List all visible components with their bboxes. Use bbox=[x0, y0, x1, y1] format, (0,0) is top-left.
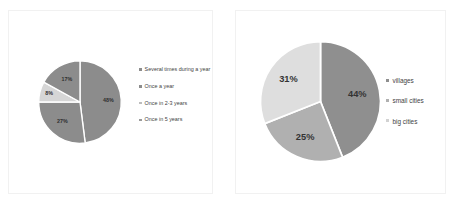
legend-survey-frequency-label: Once a year bbox=[145, 83, 174, 91]
legend-swatch-icon bbox=[386, 79, 389, 82]
legend-settlement-type-item[interactable]: villages bbox=[386, 76, 446, 85]
pie-slice-label: 31% bbox=[279, 74, 298, 84]
legend-settlement-type-item[interactable]: small cities bbox=[386, 96, 446, 105]
pie-svg-left: 48%27%8%17% bbox=[37, 59, 123, 145]
chart-panel-survey-frequency: 48%27%8%17% Several times during a yearO… bbox=[8, 10, 213, 194]
pie-slice-label: 8% bbox=[45, 90, 53, 96]
chart-panel-settlement-type: 44%25%31% villagessmall citiesbig cities bbox=[235, 10, 446, 194]
legend-survey-frequency-item[interactable]: Several times during a year bbox=[139, 66, 211, 74]
plot-area-right: 44%25%31% villagessmall citiesbig cities bbox=[236, 11, 445, 193]
legend-survey-frequency-item[interactable]: Once in 2-3 years bbox=[139, 100, 211, 108]
pie-slice-label: 48% bbox=[103, 97, 114, 103]
legend-survey-frequency-item[interactable]: Once in 5 years bbox=[139, 116, 211, 124]
legend-survey-frequency-label: Once in 5 years bbox=[145, 116, 183, 124]
screenshot-canvas: 48%27%8%17% Several times during a yearO… bbox=[0, 0, 454, 204]
legend-swatch-icon bbox=[139, 119, 142, 122]
pie-slices-right bbox=[261, 42, 381, 162]
legend-swatch-icon bbox=[139, 85, 142, 88]
legend-settlement-type-label: big cities bbox=[393, 117, 418, 126]
pie-slice-label: 25% bbox=[296, 132, 315, 142]
pie-slice-label: 44% bbox=[348, 89, 367, 99]
legend-survey-frequency-label: Several times during a year bbox=[145, 66, 211, 74]
legend-survey-frequency-item[interactable]: Once a year bbox=[139, 83, 211, 91]
legend-survey-frequency-label: Once in 2-3 years bbox=[145, 100, 188, 108]
pie-slice bbox=[80, 61, 121, 143]
legend-swatch-icon bbox=[386, 99, 389, 102]
pie-slice-label: 27% bbox=[57, 118, 68, 124]
pie-chart-survey-frequency: 48%27%8%17% bbox=[37, 59, 123, 145]
legend-survey-frequency: Several times during a yearOnce a yearOn… bbox=[139, 66, 211, 133]
pie-chart-settlement-type: 44%25%31% bbox=[258, 39, 383, 164]
legend-swatch-icon bbox=[386, 119, 389, 122]
legend-swatch-icon bbox=[139, 102, 142, 105]
legend-settlement-type-item[interactable]: big cities bbox=[386, 117, 446, 126]
plot-area-left: 48%27%8%17% Several times during a yearO… bbox=[9, 11, 212, 193]
legend-settlement-type-label: villages bbox=[393, 76, 414, 85]
pie-slice-label: 17% bbox=[62, 76, 73, 82]
legend-swatch-icon bbox=[139, 68, 142, 71]
legend-settlement-type: villagessmall citiesbig cities bbox=[386, 76, 446, 137]
legend-settlement-type-label: small cities bbox=[393, 96, 424, 105]
pie-svg-right: 44%25%31% bbox=[258, 39, 383, 164]
